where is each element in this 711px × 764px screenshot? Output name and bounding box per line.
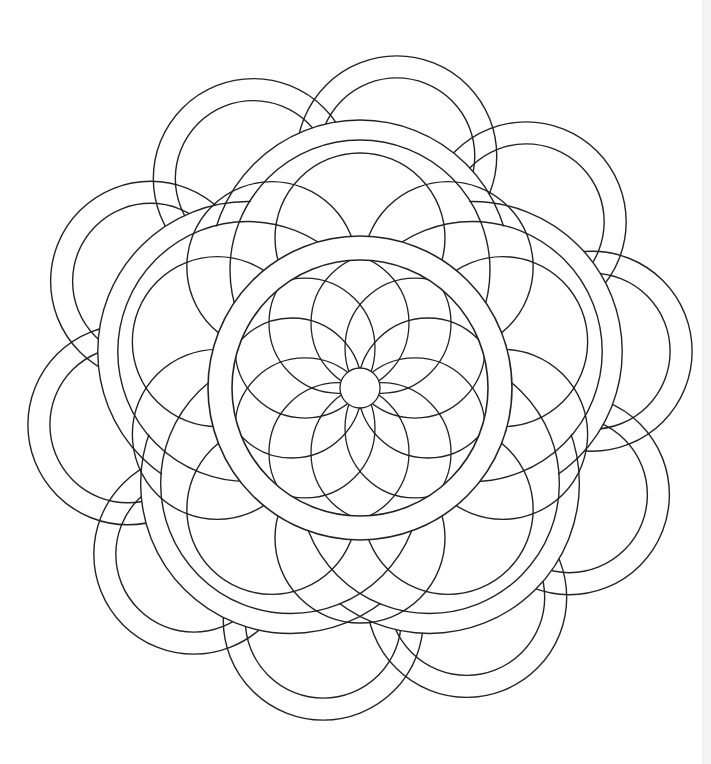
core-circle: [340, 368, 380, 408]
mandala-artwork: [0, 0, 711, 764]
